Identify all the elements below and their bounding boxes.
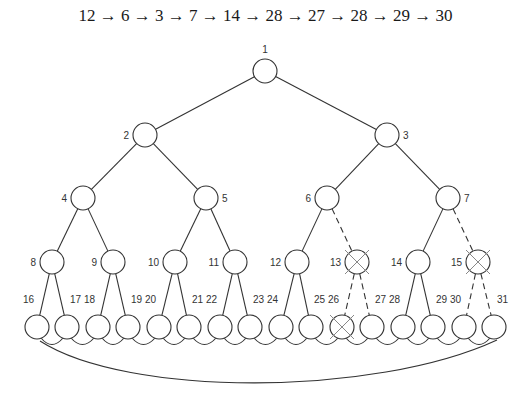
tree-node-24: 24 (267, 294, 293, 339)
edge-4-9 (88, 209, 108, 251)
leaf-link-31-16 (40, 340, 497, 383)
node-circle (375, 123, 399, 147)
tree-node-20: 20 (145, 294, 171, 339)
node-label: 22 (206, 294, 218, 305)
edge-15-31 (481, 274, 491, 316)
tree-node-28: 28 (389, 294, 415, 339)
edge-4-8 (57, 209, 78, 251)
node-label: 31 (497, 294, 509, 305)
node-circle (391, 315, 415, 339)
node-circle (360, 315, 384, 339)
edge-8-16 (40, 274, 50, 316)
edge-3-7 (395, 144, 439, 190)
node-circle (436, 186, 460, 210)
tree-node-3: 3 (375, 123, 409, 147)
edge-5-10 (180, 209, 201, 251)
tree-node-5: 5 (194, 186, 228, 210)
tree-node-18: 18 (84, 294, 110, 339)
leaf-link-18-19 (102, 338, 124, 345)
node-label: 1 (262, 44, 268, 55)
node-circle (208, 315, 232, 339)
tree-node-14: 14 (391, 250, 430, 274)
node-label: 8 (30, 257, 36, 268)
node-circle (25, 315, 49, 339)
tree-node-21: 21 (177, 294, 204, 339)
tree-node-15: 15 (451, 250, 490, 274)
node-circle (101, 250, 125, 274)
tree-node-2: 2 (123, 123, 157, 147)
tree-node-13: 13 (330, 250, 369, 274)
edge-9-18 (101, 274, 111, 316)
node-label: 12 (270, 257, 282, 268)
node-label: 18 (84, 294, 96, 305)
leaf-link-28-29 (407, 338, 429, 345)
node-circle (163, 250, 187, 274)
tree-node-16: 16 (23, 294, 49, 339)
tree-node-26: 26 (328, 294, 354, 339)
node-label: 21 (192, 294, 204, 305)
node-label: 15 (451, 257, 463, 268)
tree-node-1: 1 (253, 44, 277, 83)
edge-10-20 (162, 274, 172, 316)
tree-node-27: 27 (360, 294, 387, 339)
node-circle (194, 186, 218, 210)
node-circle (238, 315, 262, 339)
edge-14-29 (421, 274, 431, 316)
edge-3-6 (335, 144, 378, 190)
node-label: 19 (131, 294, 143, 305)
tree-node-12: 12 (270, 250, 309, 274)
leaf-link-24-25 (285, 338, 307, 345)
leaf-link-22-23 (224, 338, 246, 345)
node-label: 26 (328, 294, 340, 305)
edge-1-3 (276, 77, 377, 130)
edge-15-30 (467, 274, 476, 316)
leaf-link-19-20 (132, 338, 155, 345)
node-circle (315, 186, 339, 210)
node-circle (421, 315, 445, 339)
tree-node-10: 10 (148, 250, 187, 274)
node-circle (86, 315, 110, 339)
node-circle (406, 250, 430, 274)
node-label: 17 (70, 294, 82, 305)
node-label: 27 (375, 294, 387, 305)
node-label: 4 (61, 193, 67, 204)
tree-node-7: 7 (436, 186, 470, 210)
edge-2-4 (91, 144, 136, 190)
node-label: 24 (267, 294, 279, 305)
edge-6-13 (332, 209, 352, 251)
node-circle (177, 315, 201, 339)
node-label: 7 (464, 193, 470, 204)
tree-node-25: 25 (299, 294, 326, 339)
node-label: 9 (91, 257, 97, 268)
node-label: 14 (391, 257, 403, 268)
node-circle (223, 250, 247, 274)
edge-12-25 (300, 274, 309, 316)
edge-1-2 (156, 77, 255, 130)
node-label: 23 (253, 294, 265, 305)
node-label: 13 (330, 257, 342, 268)
node-label: 29 (436, 294, 448, 305)
tree-node-31: 31 (482, 294, 509, 339)
node-circle (116, 315, 140, 339)
leaf-link-17-18 (71, 338, 94, 345)
leaf-link-23-24 (254, 338, 277, 345)
node-label: 6 (305, 193, 311, 204)
node-circle (147, 315, 171, 339)
edge-2-5 (153, 144, 197, 190)
tree-edges (40, 77, 491, 316)
tree-node-23: 23 (238, 294, 265, 339)
edge-14-28 (406, 274, 416, 316)
tree-node-19: 19 (116, 294, 143, 339)
tree-node-11: 11 (209, 250, 247, 274)
node-circle (40, 250, 64, 274)
leaf-link-30-31 (468, 338, 490, 345)
leaf-link-25-26 (315, 338, 338, 345)
node-label: 30 (450, 294, 462, 305)
node-circle (482, 315, 506, 339)
node-circle (253, 59, 277, 83)
tree-node-29: 29 (421, 294, 448, 339)
edge-11-22 (223, 274, 233, 316)
node-circle (299, 315, 323, 339)
leaf-link-26-27 (346, 338, 368, 345)
edge-6-12 (302, 209, 322, 251)
